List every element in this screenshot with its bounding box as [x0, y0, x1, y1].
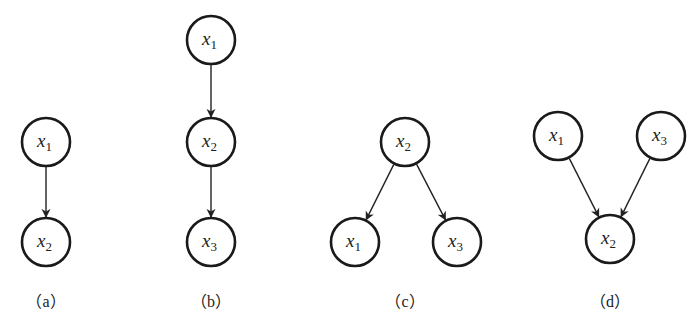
node-x2: x2 [586, 215, 634, 263]
panel-a: x1x2 [22, 118, 70, 266]
edge-arrow [417, 164, 446, 220]
node-x3: x3 [637, 112, 685, 160]
panel-b: x1x2x3 [187, 16, 235, 266]
edge-arrow [569, 158, 598, 216]
node-x1: x1 [187, 16, 235, 64]
node-x2: x2 [22, 218, 70, 266]
node-x1: x1 [331, 218, 379, 266]
panel-caption-b: （b） [191, 288, 231, 312]
bayesian-network-diagram: x1x2x1x2x3x2x1x3x1x3x2 [0, 0, 697, 331]
node-x2: x2 [187, 118, 235, 166]
node-x2: x2 [381, 118, 429, 166]
node-x1: x1 [534, 112, 582, 160]
edge-arrow [366, 164, 394, 219]
panel-caption-c: （c） [385, 288, 424, 312]
panel-c: x2x1x3 [331, 118, 481, 266]
node-x1: x1 [22, 118, 70, 166]
node-x3: x3 [187, 218, 235, 266]
node-x3: x3 [433, 218, 481, 266]
panel-caption-d: （d） [590, 288, 630, 312]
panel-d: x1x3x2 [534, 112, 685, 263]
panel-caption-a: （a） [26, 288, 65, 312]
edge-arrow [621, 158, 650, 216]
